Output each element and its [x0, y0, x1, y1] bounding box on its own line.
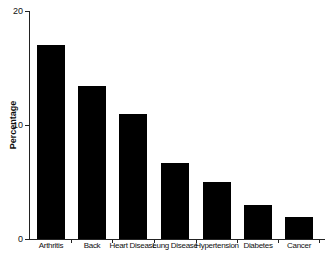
bar-heart-disease	[119, 114, 147, 239]
bar-diabetes	[244, 205, 272, 239]
y-tick-label: 0	[0, 234, 23, 244]
y-tick-label: 10	[0, 120, 23, 130]
bar-lung-disease	[161, 163, 189, 239]
x-axis-line	[29, 239, 325, 240]
y-axis-line	[29, 11, 30, 239]
bar-cancer	[285, 217, 313, 239]
bar-arthritis	[37, 45, 65, 239]
bar-back	[78, 86, 106, 239]
x-tick-label: Cancer	[269, 241, 329, 251]
bar-hypertension	[203, 182, 231, 239]
y-tick-label: 20	[0, 6, 23, 16]
y-tick	[25, 125, 29, 126]
y-tick	[25, 239, 29, 240]
y-tick	[25, 11, 29, 12]
